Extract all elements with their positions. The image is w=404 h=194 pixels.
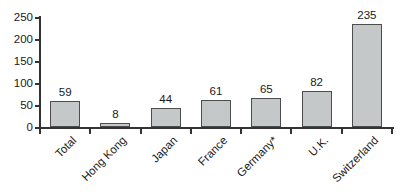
x-tick <box>240 129 242 134</box>
y-tick <box>35 61 40 63</box>
bar-u-k <box>302 91 332 127</box>
bar-france <box>201 100 231 127</box>
y-tick-label: 100 <box>0 76 33 90</box>
x-tick <box>89 129 91 134</box>
y-tick <box>35 105 40 107</box>
y-tick <box>35 39 40 41</box>
bar-chart: 05010015020025059Total8Hong Kong44Japan6… <box>0 0 404 194</box>
bar-value-label-germany: 65 <box>241 83 291 96</box>
y-tick-label: 250 <box>0 10 33 24</box>
bar-japan <box>151 108 181 127</box>
bar-value-label-total: 59 <box>40 86 90 99</box>
x-tick <box>190 129 192 134</box>
y-tick-label: 50 <box>0 98 33 112</box>
y-tick-label: 150 <box>0 54 33 68</box>
bar-value-label-switzerland: 235 <box>342 9 392 22</box>
x-tick <box>391 129 393 134</box>
bar-value-label-hong-kong: 8 <box>90 108 140 121</box>
y-tick-label: 0 <box>0 120 33 134</box>
x-tick <box>341 129 343 134</box>
bar-germany <box>251 98 281 127</box>
y-axis-line <box>39 16 41 129</box>
bar-switzerland <box>352 24 382 127</box>
x-tick <box>140 129 142 134</box>
bar-value-label-japan: 44 <box>141 93 191 106</box>
y-tick <box>35 17 40 19</box>
x-tick <box>39 129 41 134</box>
y-tick <box>35 83 40 85</box>
bar-value-label-u-k: 82 <box>292 76 342 89</box>
y-tick-label: 200 <box>0 32 33 46</box>
x-tick <box>290 129 292 134</box>
bar-value-label-france: 61 <box>191 85 241 98</box>
bar-total <box>50 101 80 127</box>
bar-hong-kong <box>100 123 130 127</box>
